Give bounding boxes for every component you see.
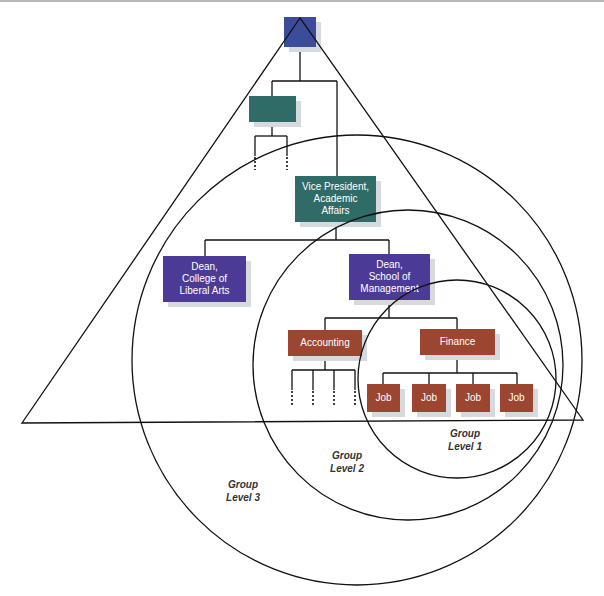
dean-mgmt-line1: Dean,	[360, 259, 418, 271]
group-level-1-label: Group Level 1	[440, 427, 490, 453]
group-level-3-label: Group Level 3	[218, 478, 268, 504]
org-diagram: Vice President, Academic Affairs Dean, C…	[0, 0, 604, 596]
group-level-2-line1: Group	[332, 450, 362, 461]
group-level-1-line2: Level 1	[448, 441, 482, 452]
diagram-lines	[0, 0, 604, 596]
group-level-3-line2: Level 3	[226, 492, 260, 503]
accounting-label: Accounting	[300, 337, 349, 349]
dean-la-line1: Dean,	[179, 261, 229, 273]
job-box: Job	[456, 384, 490, 412]
group-level-2-line2: Level 2	[330, 463, 364, 474]
dean-la-line2: College of	[179, 273, 229, 285]
accounting-box: Accounting	[288, 330, 362, 356]
finance-box: Finance	[420, 329, 495, 355]
top-executive-box	[284, 17, 316, 47]
dean-mgmt-line3: Management	[360, 283, 418, 295]
job-box: Job	[500, 384, 533, 412]
group-level-3-line1: Group	[228, 479, 258, 490]
job-box: Job	[412, 384, 446, 412]
job-label: Job	[508, 392, 524, 404]
vp-academic-affairs-box: Vice President, Academic Affairs	[295, 176, 376, 222]
group-level-1-line1: Group	[450, 428, 480, 439]
vp-label-line2: Academic	[302, 193, 369, 205]
vp-label-line1: Vice President,	[302, 181, 369, 193]
vp-label-line3: Affairs	[302, 205, 369, 217]
dean-liberal-arts-box: Dean, College of Liberal Arts	[163, 256, 246, 302]
job-label: Job	[375, 392, 391, 404]
job-label: Job	[465, 392, 481, 404]
dean-la-line3: Liberal Arts	[179, 285, 229, 297]
unlabeled-vp-box	[249, 96, 296, 122]
group-level-2-label: Group Level 2	[322, 449, 372, 475]
job-label: Job	[421, 392, 437, 404]
dean-management-box: Dean, School of Management	[349, 254, 430, 300]
job-box: Job	[367, 384, 400, 412]
dean-mgmt-line2: School of	[360, 271, 418, 283]
finance-label: Finance	[440, 336, 476, 348]
